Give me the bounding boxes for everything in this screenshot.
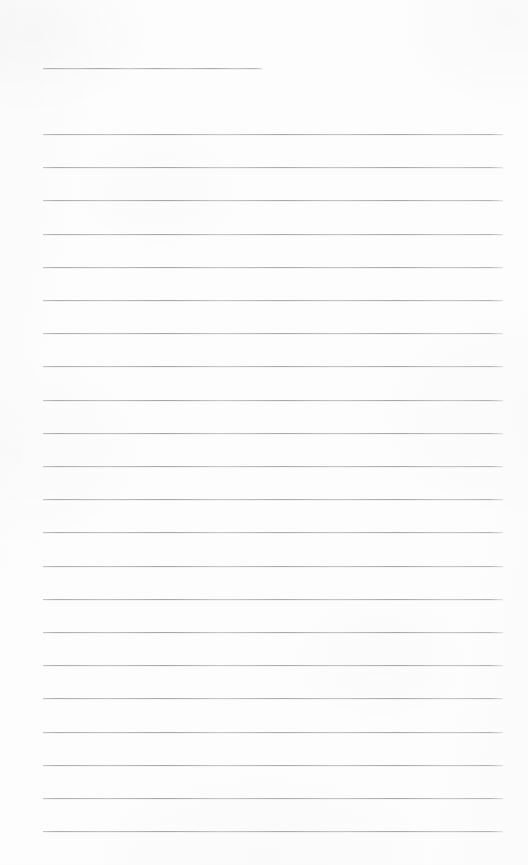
ruled-line-20 <box>43 732 503 733</box>
ruled-line-6 <box>43 267 503 268</box>
ruled-line-1 <box>43 68 262 69</box>
ruled-line-9 <box>43 366 503 367</box>
ruled-line-16 <box>43 599 503 600</box>
ruled-line-19 <box>43 698 503 699</box>
ruled-line-10 <box>43 400 503 401</box>
ruled-line-7 <box>43 300 503 301</box>
ruled-line-12 <box>43 466 503 467</box>
ruled-line-4 <box>43 200 503 201</box>
ruled-line-5 <box>43 234 503 235</box>
ruled-line-11 <box>43 433 503 434</box>
ruled-line-3 <box>43 167 503 168</box>
notepad-page <box>0 0 528 865</box>
ruled-line-13 <box>43 499 503 500</box>
ruled-line-17 <box>43 632 503 633</box>
ruled-line-23 <box>43 831 503 832</box>
ruled-line-15 <box>43 566 503 567</box>
ruled-line-14 <box>43 532 503 533</box>
ruled-line-18 <box>43 665 503 666</box>
ruled-line-2 <box>43 134 503 135</box>
ruled-line-8 <box>43 333 503 334</box>
ruled-line-21 <box>43 765 503 766</box>
ruled-line-22 <box>43 798 503 799</box>
